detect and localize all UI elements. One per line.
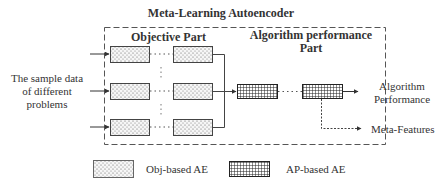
legend-ap-swatch [230, 162, 270, 177]
ap-part-line-2: Part [236, 42, 386, 55]
obj-column-connectors [150, 54, 173, 127]
input-label-line-1: The sample data [2, 72, 92, 85]
algorithm-performance-output: Algorithm Performance [362, 80, 442, 106]
obj-ae-node [174, 120, 213, 136]
diagram-title: Meta-Learning Autoencoder [0, 7, 442, 19]
ap-ae-node [303, 85, 343, 99]
merge-lines [213, 55, 236, 128]
obj-ae-node [111, 120, 150, 136]
legend-obj-swatch [94, 161, 134, 178]
legend-obj-label: Obj-based AE [146, 163, 208, 175]
input-label: The sample data of different problems [2, 72, 92, 111]
output-line-1: Algorithm [362, 80, 442, 93]
obj-ae-node [174, 84, 213, 100]
obj-ae-node [174, 47, 213, 63]
output-line-2: Performance [362, 93, 442, 106]
input-label-line-3: problems [2, 98, 92, 111]
input-label-line-2: of different [2, 85, 92, 98]
obj-column-1 [111, 47, 150, 136]
legend-ap-label: AP-based AE [286, 163, 346, 175]
algorithm-performance-part-label: Algorithm performance Part [236, 29, 386, 55]
input-arrows [90, 54, 109, 127]
obj-column-2 [174, 47, 213, 136]
objective-part-label: Objective Part [131, 31, 206, 43]
meta-features-arrow [322, 99, 362, 129]
ap-ae-node [238, 85, 278, 99]
meta-features-output: Meta-Features [371, 123, 435, 135]
obj-ae-node [111, 84, 150, 100]
obj-ae-node [111, 47, 150, 63]
